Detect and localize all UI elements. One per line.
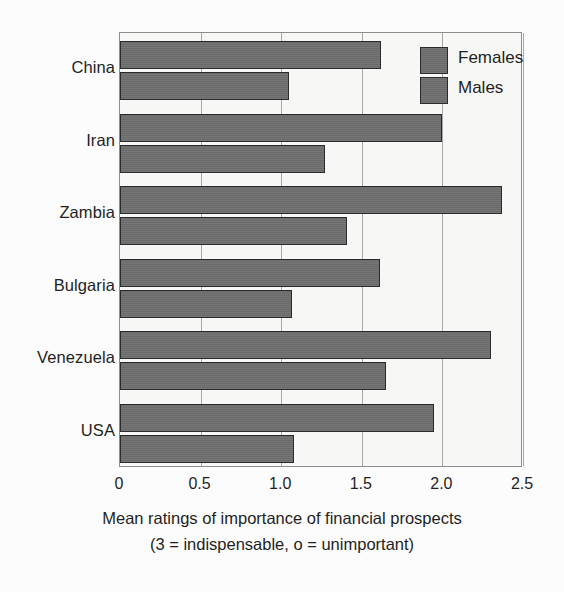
x-axis-caption: Mean ratings of importance of financial … [0,505,564,557]
category-axis-labels: ChinaIranZambiaBulgariaVenezuelaUSA [0,32,115,467]
x-tick-label-0: 0 [115,475,124,493]
bar-group [120,404,521,469]
x-tick-label-0.5: 0.5 [188,475,210,493]
legend-swatch-males [420,77,448,104]
x-axis-caption-line-1: Mean ratings of importance of financial … [0,505,564,531]
category-label-iran: Iran [5,131,115,150]
bar-group [120,186,521,251]
bar-females [120,404,434,432]
bar-chart-figure: ChinaIranZambiaBulgariaVenezuelaUSA Fema… [0,0,564,592]
chart-legend: FemalesMales [420,47,548,109]
bar-females [120,114,442,142]
x-axis-tick-labels: 00.51.01.52.02.5 [0,475,564,499]
bar-females [120,331,491,359]
bar-males [120,145,325,173]
bar-males [120,72,289,100]
bar-males [120,290,292,318]
x-tick-label-2.5: 2.5 [511,475,533,493]
category-label-zambia: Zambia [5,203,115,222]
bar-females [120,41,381,69]
category-label-bulgaria: Bulgaria [5,276,115,295]
category-label-china: China [5,58,115,77]
x-tick-label-1.0: 1.0 [269,475,291,493]
category-label-venezuela: Venezuela [5,348,115,367]
bar-males [120,217,347,245]
bar-females [120,259,380,287]
x-axis-caption-line-2: (3 = indispensable, o = unimportant) [0,531,564,557]
bar-males [120,362,386,390]
legend-swatch-females [420,47,448,74]
bar-group [120,114,521,179]
bar-males [120,435,294,463]
x-tick-label-2.0: 2.0 [430,475,452,493]
legend-label-females: Females [458,48,523,68]
plot-area: FemalesMales [119,32,522,467]
bar-group [120,331,521,396]
x-tick-label-1.5: 1.5 [350,475,372,493]
category-label-usa: USA [5,421,115,440]
bar-females [120,186,502,214]
bar-group [120,259,521,324]
legend-label-males: Males [458,78,503,98]
